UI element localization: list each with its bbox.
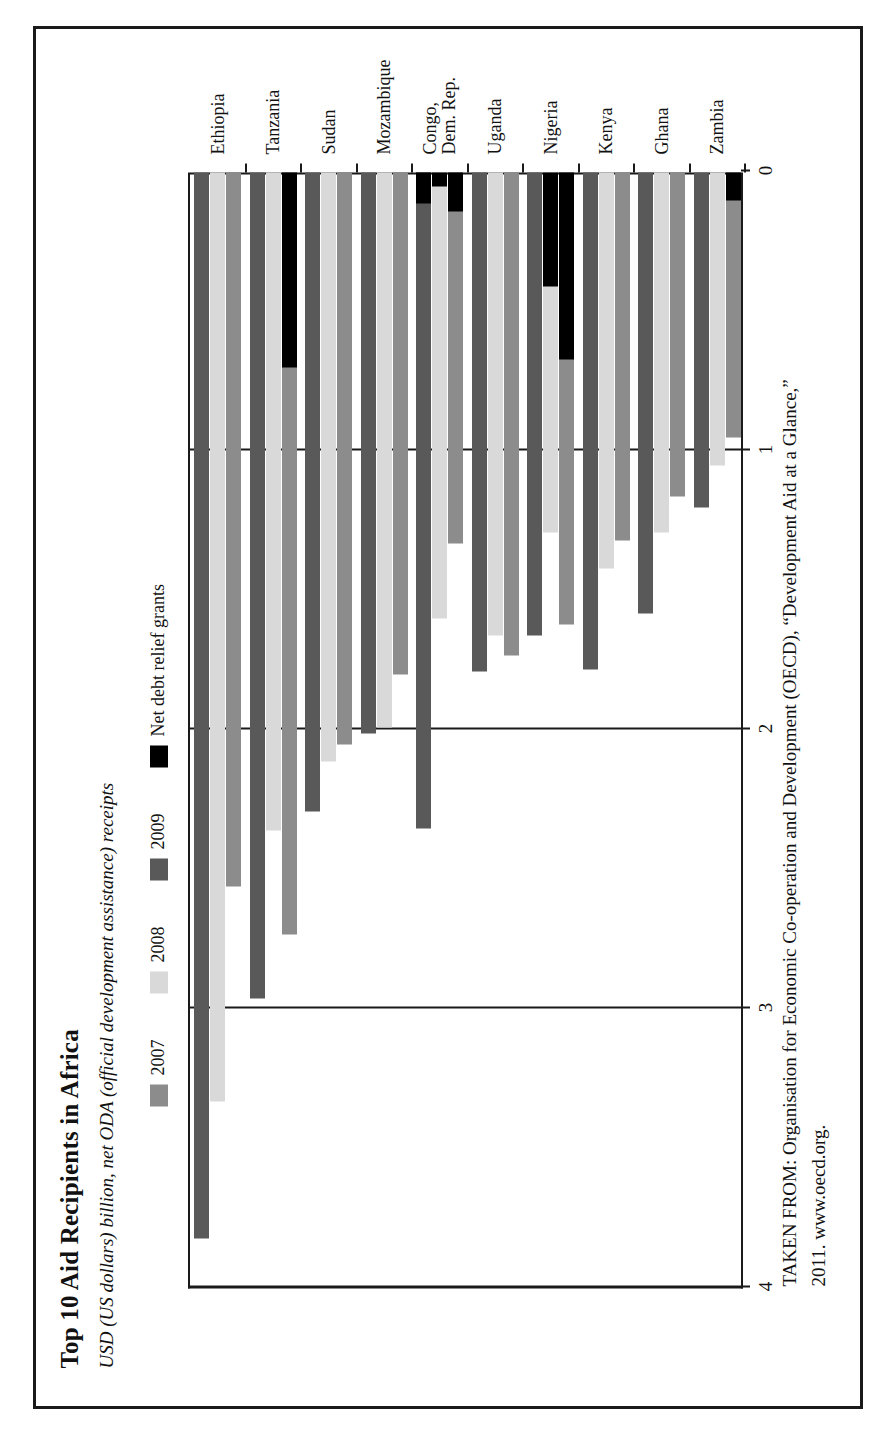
category-tick [689, 163, 691, 172]
bar-tanzania-2008 [266, 172, 281, 830]
category-label-ghana: Ghana [652, 107, 671, 154]
category-label-line: Tanzania [264, 89, 283, 154]
category-label-line: Nigeria [541, 100, 560, 154]
debt-relief-segment [559, 172, 574, 359]
source-line-1: TAKEN FROM: Organisation for Economic Co… [776, 126, 805, 1286]
category-tick [356, 163, 358, 172]
bar-ethiopia-2008 [210, 172, 225, 1101]
category-label-tanzania: Tanzania [264, 89, 283, 154]
bar-group: Tanzania [246, 172, 302, 1286]
category-tick [467, 163, 469, 172]
legend-swatch-icon [150, 971, 168, 993]
category-label-uganda: Uganda [486, 98, 505, 154]
legend-item-2007: 2007 [148, 1039, 169, 1106]
debt-relief-segment [448, 172, 463, 211]
category-tick [300, 163, 302, 172]
x-tick-label-2: 2 [755, 723, 777, 733]
bar-nigeria-2009 [527, 172, 542, 635]
category-tick [578, 163, 580, 172]
category-label-mozambique: Mozambique [375, 59, 394, 154]
bar-group: Ghana [634, 172, 690, 1286]
bar-congo-dem-rep--2008 [432, 172, 447, 618]
bar-kenya-2009 [583, 172, 598, 669]
bar-ghana-2007 [670, 172, 685, 496]
category-label-line: Ethiopia [208, 93, 227, 154]
legend-label: 2008 [148, 926, 169, 962]
category-label-congo-dem-rep-: Congo,Dem. Rep. [421, 77, 459, 154]
bar-zambia-2008 [710, 172, 725, 465]
bar-group: Ethiopia [190, 172, 246, 1286]
bar-ghana-2009 [638, 172, 653, 613]
bar-group: Mozambique [357, 172, 413, 1286]
rotated-figure-canvas: Top 10 Aid Recipients in Africa USD (US … [36, 29, 860, 1406]
bar-sudan-2008 [321, 172, 336, 761]
legend-swatch-icon [150, 858, 168, 880]
category-tick [411, 163, 413, 172]
category-tick [633, 163, 635, 172]
debt-relief-segment [416, 172, 431, 203]
category-label-line: Ghana [652, 107, 671, 154]
bar-ethiopia-2009 [194, 172, 209, 1238]
bar-uganda-2008 [488, 172, 503, 635]
bar-ghana-2008 [654, 172, 669, 532]
bar-zambia-2009 [694, 172, 709, 507]
legend-swatch-icon [150, 1084, 168, 1106]
bar-sudan-2009 [305, 172, 320, 811]
category-label-line: Sudan [319, 109, 338, 154]
bar-group: Sudan [301, 172, 357, 1286]
bar-congo-dem-rep--2009 [416, 172, 431, 828]
category-label-sudan: Sudan [319, 109, 338, 154]
debt-relief-segment [432, 172, 447, 186]
bar-uganda-2007 [504, 172, 519, 655]
category-label-line: Kenya [597, 107, 616, 154]
bar-nigeria-2007 [559, 172, 574, 624]
category-label-line: Mozambique [375, 59, 394, 154]
bar-zambia-2007 [726, 172, 741, 437]
category-label-kenya: Kenya [597, 107, 616, 154]
bar-kenya-2007 [615, 172, 630, 540]
bar-nigeria-2008 [543, 172, 558, 532]
bar-group: Kenya [579, 172, 635, 1286]
category-label-zambia: Zambia [708, 99, 727, 154]
bar-group: Zambia [690, 172, 746, 1286]
figure-border: Top 10 Aid Recipients in Africa USD (US … [33, 26, 863, 1409]
chart-legend: 200720082009Net debt relief grants [148, 584, 169, 1106]
category-tick [522, 163, 524, 172]
category-tick [744, 163, 746, 172]
category-label-line: Zambia [708, 99, 727, 154]
bar-tanzania-2009 [250, 172, 265, 998]
bar-group: Nigeria [523, 172, 579, 1286]
debt-relief-segment [543, 172, 558, 286]
figure-subtitle: USD (US dollars) billion, net ODA (offic… [96, 782, 118, 1368]
legend-label: Net debt relief grants [148, 584, 169, 736]
category-label-line: Uganda [486, 98, 505, 154]
bar-uganda-2009 [472, 172, 487, 671]
bar-mozambique-2008 [377, 172, 392, 727]
page-title: Top 10 Aid Recipients in Africa [56, 1029, 84, 1368]
category-label-line: Congo, [421, 77, 440, 154]
bar-group: Congo,Dem. Rep. [412, 172, 468, 1286]
figure-page: Top 10 Aid Recipients in Africa USD (US … [0, 0, 893, 1439]
x-tick-label-0: 0 [755, 165, 777, 175]
legend-label: 2009 [148, 813, 169, 849]
x-tick-label-3: 3 [755, 1002, 777, 1012]
legend-item-2009: 2009 [148, 813, 169, 880]
category-tick [245, 163, 247, 172]
source-line-2: 2011. www.oecd.org. [805, 126, 834, 1286]
bar-kenya-2008 [599, 172, 614, 568]
category-label-ethiopia: Ethiopia [208, 93, 227, 154]
legend-swatch-icon [150, 745, 168, 767]
category-label-nigeria: Nigeria [541, 100, 560, 154]
legend-label: 2007 [148, 1039, 169, 1075]
bar-congo-dem-rep--2007 [448, 172, 463, 543]
category-label-line: Dem. Rep. [440, 77, 459, 154]
legend-item-2008: 2008 [148, 926, 169, 993]
bar-tanzania-2007 [282, 172, 297, 934]
bar-mozambique-2007 [393, 172, 408, 674]
chart-plot-area: 01234EthiopiaTanzaniaSudanMozambiqueCong… [188, 172, 743, 1288]
legend-item-net-debt-relief-grants: Net debt relief grants [148, 584, 169, 767]
debt-relief-segment [282, 172, 297, 367]
bar-mozambique-2009 [361, 172, 376, 733]
debt-relief-segment [726, 172, 741, 200]
bar-sudan-2007 [337, 172, 352, 744]
